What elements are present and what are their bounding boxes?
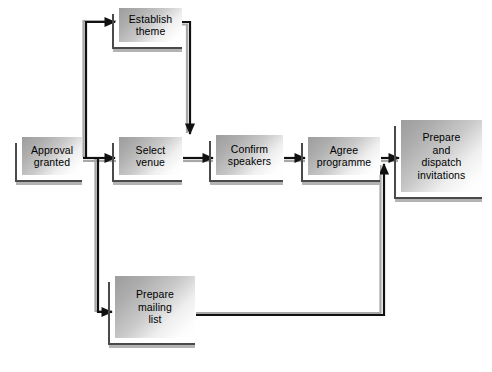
node-label: Approvalgranted bbox=[29, 144, 75, 169]
box-frame-bottom-soft bbox=[302, 182, 380, 185]
node-confirm-speakers[interactable]: Confirmspeakers bbox=[216, 135, 283, 175]
box-frame-bottom-soft bbox=[109, 345, 195, 348]
box-frame-left bbox=[112, 14, 114, 49]
node-approval-granted[interactable]: Approvalgranted bbox=[22, 137, 82, 175]
node-select-venue[interactable]: Selectvenue bbox=[119, 137, 182, 175]
box-frame-left bbox=[15, 143, 17, 182]
box-frame-bottom-soft bbox=[210, 182, 283, 185]
box-frame-left bbox=[394, 126, 396, 199]
box-frame-bottom-soft bbox=[113, 49, 182, 52]
node-prepare-mailing-list[interactable]: Preparemailinglist bbox=[115, 276, 195, 338]
box-frame-left bbox=[301, 143, 303, 182]
node-label: Prepareanddispatchinvitations bbox=[416, 131, 468, 181]
box-frame-left bbox=[209, 141, 211, 182]
box-frame-bottom-soft bbox=[395, 199, 482, 202]
node-label: Confirmspeakers bbox=[226, 143, 273, 168]
edge-mailing-to-prepdisp bbox=[196, 164, 384, 315]
edge-approval-to-establish bbox=[86, 22, 115, 157]
node-prepare-and-dispatch-invitations[interactable]: Prepareanddispatchinvitations bbox=[401, 120, 482, 192]
node-label: Establishtheme bbox=[127, 13, 175, 38]
node-label: Preparemailinglist bbox=[134, 288, 176, 326]
box-frame-left bbox=[112, 143, 114, 182]
node-label: Selectvenue bbox=[134, 144, 168, 169]
box-frame-left bbox=[108, 282, 110, 345]
node-label: Agreeprogramme bbox=[315, 144, 374, 169]
flowchart-canvas: Approvalgranted Establishtheme Selectven… bbox=[0, 0, 492, 372]
node-agree-programme[interactable]: Agreeprogramme bbox=[308, 137, 380, 175]
box-frame-bottom-soft bbox=[16, 182, 82, 185]
node-establish-theme[interactable]: Establishtheme bbox=[119, 8, 182, 42]
box-frame-bottom-soft bbox=[113, 182, 182, 185]
